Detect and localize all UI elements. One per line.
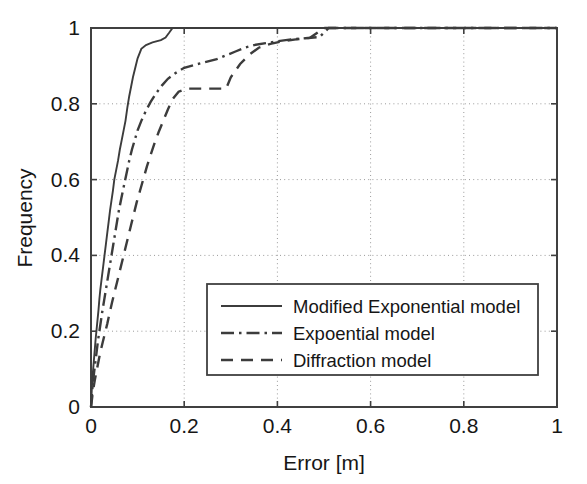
y-axis-tick-labels: 00.20.40.60.81 bbox=[51, 16, 81, 418]
y-tick-label: 0 bbox=[68, 395, 80, 418]
x-tick-label: 0.4 bbox=[263, 414, 293, 437]
legend-label-1: Expoential model bbox=[293, 323, 435, 344]
y-tick-label: 0.8 bbox=[51, 92, 80, 115]
y-axis-title: Frequency bbox=[13, 168, 36, 268]
x-tick-label: 0.8 bbox=[449, 414, 478, 437]
y-tick-label: 0.2 bbox=[51, 319, 80, 342]
legend-label-2: Diffraction model bbox=[293, 350, 431, 371]
legend[interactable]: Modified Exponential modelExpoential mod… bbox=[207, 284, 538, 375]
x-axis-tick-labels: 00.20.40.60.81 bbox=[85, 414, 563, 437]
x-axis-title: Error [m] bbox=[283, 451, 365, 474]
y-tick-label: 0.4 bbox=[51, 243, 81, 266]
x-tick-label: 1 bbox=[551, 414, 563, 437]
figure-container: 00.20.40.60.81 00.20.40.60.81 Error [m] … bbox=[0, 0, 587, 484]
y-tick-label: 0.6 bbox=[51, 168, 80, 191]
x-tick-label: 0.6 bbox=[356, 414, 385, 437]
x-tick-label: 0 bbox=[85, 414, 97, 437]
legend-label-0: Modified Exponential model bbox=[293, 296, 520, 317]
x-tick-label: 0.2 bbox=[170, 414, 199, 437]
y-tick-label: 1 bbox=[68, 16, 80, 39]
cdf-chart: 00.20.40.60.81 00.20.40.60.81 Error [m] … bbox=[0, 0, 587, 484]
